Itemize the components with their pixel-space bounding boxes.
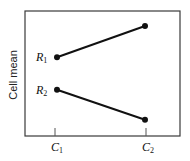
interaction-plot: Cell mean C1 C2 R1 R2: [0, 0, 190, 161]
series-line-r2: [57, 90, 145, 120]
series-label-r2: R2: [35, 83, 47, 98]
data-point-r1-c1: [54, 54, 60, 60]
data-point-r2-c2: [142, 117, 148, 123]
x-tick-label-c1: C1: [51, 140, 63, 155]
series-line-r1: [57, 26, 145, 57]
series-label-r1: R1: [35, 50, 47, 65]
x-tick-label-c2: C2: [142, 140, 154, 155]
series-layer: [54, 23, 148, 123]
data-point-r2-c1: [54, 87, 60, 93]
plot-frame: [25, 11, 180, 136]
y-axis-label: Cell mean: [7, 50, 19, 100]
data-point-r1-c2: [142, 23, 148, 29]
